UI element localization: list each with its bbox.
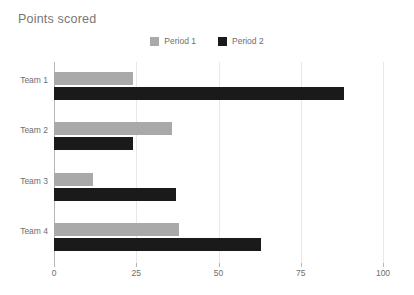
chart-title: Points scored xyxy=(18,12,96,26)
bar-group xyxy=(54,62,383,112)
bar-chart: Points scored Period 1Period 2 Team 1Tea… xyxy=(0,0,414,295)
x-tick-mark xyxy=(54,263,55,267)
y-tick-label-1: Team 1 xyxy=(2,75,48,85)
x-tick-mark xyxy=(219,263,220,267)
legend-label: Period 1 xyxy=(164,36,196,46)
x-tick-label-4: 75 xyxy=(296,268,305,278)
y-tick-label-2: Team 2 xyxy=(2,125,48,135)
bar-team-4-period-1[interactable] xyxy=(54,223,179,236)
legend-swatch-icon xyxy=(218,37,227,46)
x-tick-label-2: 25 xyxy=(132,268,141,278)
x-tick-label-1: 0 xyxy=(52,268,57,278)
chart-legend: Period 1Period 2 xyxy=(0,36,414,46)
x-axis-tick-labels: 0255075100 xyxy=(54,268,383,282)
y-tick-label-4: Team 4 xyxy=(2,226,48,236)
gridline xyxy=(383,62,384,263)
x-tick-label-5: 100 xyxy=(376,268,390,278)
bar-team-3-period-2[interactable] xyxy=(54,188,176,201)
bar-team-2-period-2[interactable] xyxy=(54,137,133,150)
x-tick-mark xyxy=(383,263,384,267)
bar-group xyxy=(54,163,383,213)
x-tick-mark xyxy=(136,263,137,267)
bar-team-2-period-1[interactable] xyxy=(54,122,172,135)
x-tick-label-3: 50 xyxy=(214,268,223,278)
bar-team-3-period-1[interactable] xyxy=(54,173,93,186)
x-tick-mark xyxy=(301,263,302,267)
bar-team-1-period-2[interactable] xyxy=(54,87,344,100)
legend-swatch-icon xyxy=(150,37,159,46)
y-axis-tick-labels: Team 1Team 2Team 3Team 4 xyxy=(0,62,48,263)
bar-group xyxy=(54,112,383,162)
legend-item-1[interactable]: Period 1 xyxy=(150,36,196,46)
bar-team-1-period-1[interactable] xyxy=(54,72,133,85)
plot-area xyxy=(54,62,383,263)
legend-label: Period 2 xyxy=(232,36,264,46)
bar-team-4-period-2[interactable] xyxy=(54,238,261,251)
y-tick-label-3: Team 3 xyxy=(2,176,48,186)
legend-item-2[interactable]: Period 2 xyxy=(218,36,264,46)
bar-group xyxy=(54,213,383,263)
